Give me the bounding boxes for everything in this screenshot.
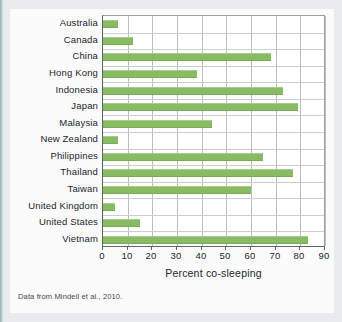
gridline-horizontal: [103, 132, 324, 133]
x-tick-label: 40: [189, 250, 213, 261]
gridline-horizontal: [103, 231, 324, 232]
source-note: Data from Mindell et al., 2010.: [18, 292, 122, 301]
gridline-horizontal: [103, 115, 324, 116]
x-tick-label: 70: [263, 250, 287, 261]
bar: [103, 169, 293, 177]
gridline-horizontal: [103, 182, 324, 183]
gridline-horizontal: [103, 33, 324, 34]
gridline-vertical: [202, 16, 203, 246]
gridline-vertical: [251, 16, 252, 246]
bar: [103, 103, 298, 111]
bar: [103, 53, 271, 61]
category-label: Japan: [71, 99, 98, 113]
bar: [103, 20, 118, 28]
category-axis-labels: AustraliaCanadaChinaHong KongIndonesiaJa…: [10, 15, 102, 247]
category-label: Malaysia: [59, 116, 98, 130]
gridline-horizontal: [103, 215, 324, 216]
gridline-vertical: [276, 16, 277, 246]
bar: [103, 120, 212, 128]
gridline-vertical: [177, 16, 178, 246]
category-label: Indonesia: [55, 83, 98, 97]
gridline-horizontal: [103, 165, 324, 166]
category-label: Canada: [64, 33, 98, 47]
bar: [103, 87, 283, 95]
gridline-horizontal: [103, 149, 324, 150]
plot-block: AustraliaCanadaChinaHong KongIndonesiaJa…: [10, 15, 334, 255]
bar: [103, 219, 140, 227]
bar: [103, 37, 133, 45]
x-tick-label: 90: [312, 250, 336, 261]
bar: [103, 70, 197, 78]
gridline-horizontal: [103, 66, 324, 67]
x-axis-title: Percent co-sleeping: [102, 267, 325, 279]
page-left-edge-strip: [0, 0, 3, 322]
category-label: Thailand: [60, 165, 98, 179]
figure-root: AustraliaCanadaChinaHong KongIndonesiaJa…: [0, 0, 342, 322]
category-label: Philippines: [50, 149, 98, 163]
category-label: Hong Kong: [49, 66, 98, 80]
bar-chart-figure: AustraliaCanadaChinaHong KongIndonesiaJa…: [10, 9, 334, 313]
gridline-vertical: [226, 16, 227, 246]
x-tick-label: 80: [287, 250, 311, 261]
gridline-horizontal: [103, 198, 324, 199]
category-label: China: [72, 49, 98, 63]
gridline-vertical: [325, 16, 326, 246]
gridline-horizontal: [103, 49, 324, 50]
bar: [103, 236, 308, 244]
bar: [103, 203, 115, 211]
x-axis-ticks: 0102030405060708090: [102, 247, 325, 263]
category-label: New Zealand: [40, 132, 98, 146]
bar: [103, 153, 263, 161]
gridline-horizontal: [103, 99, 324, 100]
plot-area: [102, 15, 325, 247]
x-tick-label: 10: [115, 250, 139, 261]
bar: [103, 136, 118, 144]
gridline-vertical: [152, 16, 153, 246]
category-label: Vietnam: [62, 232, 98, 246]
x-tick-label: 60: [238, 250, 262, 261]
category-label: United Kingdom: [28, 199, 98, 213]
bar: [103, 186, 251, 194]
gridline-horizontal: [103, 82, 324, 83]
category-label: Australia: [60, 16, 98, 30]
gridline-vertical: [128, 16, 129, 246]
category-label: United States: [39, 215, 98, 229]
gridline-vertical: [300, 16, 301, 246]
category-label: Taiwan: [68, 182, 98, 196]
x-tick-label: 50: [213, 250, 237, 261]
x-tick-label: 0: [90, 250, 114, 261]
x-tick-label: 20: [139, 250, 163, 261]
x-tick-label: 30: [164, 250, 188, 261]
